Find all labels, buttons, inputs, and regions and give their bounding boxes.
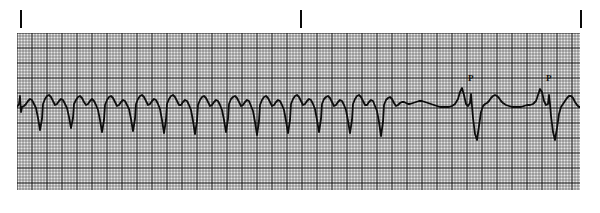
ecg-waveform-trace xyxy=(17,33,580,190)
timing-tick-left xyxy=(20,10,22,28)
ecg-rhythm-strip: P P xyxy=(0,0,600,213)
timing-tick-center xyxy=(300,10,302,28)
p-wave-label-2: P xyxy=(546,74,552,83)
p-wave-label-1: P xyxy=(468,74,474,83)
timing-tick-right xyxy=(580,10,582,28)
ecg-waveform-layer xyxy=(17,33,580,190)
